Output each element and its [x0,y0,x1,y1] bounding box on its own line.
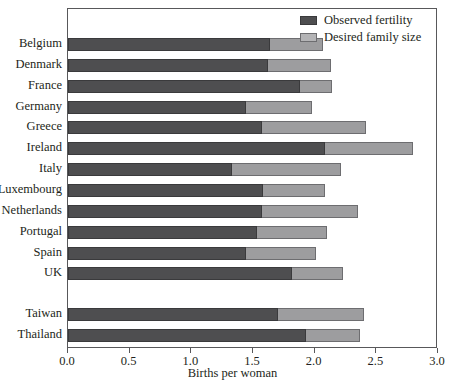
bar-observed-fertility [68,101,246,114]
x-axis-tick-mark [67,348,68,353]
legend-entry-desired-family-size: Desired family size [300,30,421,45]
legend-entry-observed-fertility: Observed fertility [300,13,421,28]
bar-observed-fertility [68,38,270,51]
observed-fertility-swatch-icon [300,16,317,25]
x-axis-tick-mark [314,348,315,353]
plot-area [67,8,437,348]
bar-observed-fertility [68,163,232,176]
bar-observed-fertility [68,226,257,239]
bar-observed-fertility [68,247,246,260]
y-axis-label-portugal: Portugal [0,225,62,238]
y-axis-label-denmark: Denmark [0,58,62,71]
bar-observed-fertility [68,329,306,342]
y-axis-label-uk: UK [0,266,62,279]
bar-observed-fertility [68,80,300,93]
y-axis-label-ireland: Ireland [0,141,62,154]
x-axis-tick-mark [129,348,130,353]
chart-legend: Observed fertility Desired family size [300,13,421,47]
x-axis-tick-mark [190,348,191,353]
bar-observed-fertility [68,59,268,72]
y-axis-label-germany: Germany [0,100,62,113]
legend-label-desired-family-size: Desired family size [324,30,421,45]
x-axis-tick-mark [437,348,438,353]
bar-observed-fertility [68,205,262,218]
x-axis-tick-mark [252,348,253,353]
bar-observed-fertility [68,121,262,134]
x-axis-title: Births per woman [0,366,465,381]
y-axis-label-netherlands: Netherlands [0,204,62,217]
bar-observed-fertility [68,267,292,280]
bar-observed-fertility [68,308,278,321]
bars-layer [68,9,436,347]
legend-label-observed-fertility: Observed fertility [324,13,413,28]
y-axis-label-belgium: Belgium [0,37,62,50]
y-axis-label-greece: Greece [0,120,62,133]
y-axis-label-italy: Italy [0,162,62,175]
y-axis-label-taiwan: Taiwan [0,307,62,320]
bar-observed-fertility [68,184,263,197]
y-axis-label-thailand: Thailand [0,328,62,341]
desired-family-size-swatch-icon [300,33,317,42]
bar-observed-fertility [68,142,325,155]
y-axis-label-spain: Spain [0,246,62,259]
y-axis-label-france: France [0,79,62,92]
x-axis-tick-mark [375,348,376,353]
y-axis-label-luxembourg: Luxembourg [0,183,62,196]
